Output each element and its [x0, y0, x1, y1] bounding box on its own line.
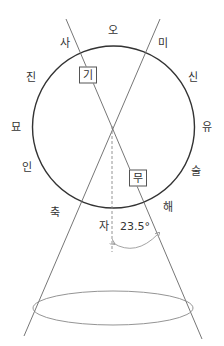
branch-label-sin: 신: [188, 72, 198, 83]
angle-label: 23.5°: [120, 221, 150, 232]
branch-label-sul: 술: [191, 166, 201, 177]
branch-label-mi: 미: [158, 38, 168, 49]
stem-label-gi: 기: [79, 67, 97, 84]
branch-label-hae: 해: [163, 202, 173, 213]
branch-label-jin: 진: [26, 72, 36, 83]
branch-label-ja: 자: [99, 221, 109, 232]
branch-label-o: 오: [108, 25, 118, 36]
stem-label-mu: 무: [129, 170, 147, 187]
branch-label-yu: 유: [202, 122, 212, 133]
angle-arc-arrow: [113, 234, 158, 248]
precession-ellipse: [33, 291, 193, 325]
branch-label-myo: 묘: [11, 122, 21, 133]
branch-label-chuk: 축: [50, 207, 60, 218]
celestial-precession-diagram: 오미신유술해자축인묘진사 기무 23.5°: [0, 0, 224, 346]
branch-label-sa: 사: [60, 38, 70, 49]
branch-label-in: 인: [22, 162, 32, 173]
